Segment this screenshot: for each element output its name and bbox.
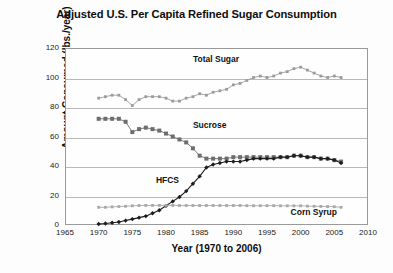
series-label-hfcs: HFCS <box>156 175 179 185</box>
y-tick-120: 120 <box>29 43 59 52</box>
gridline-y-40 <box>66 167 367 168</box>
gridline-y-60 <box>66 138 367 139</box>
x-tick-2010: 2010 <box>348 228 388 237</box>
series-label-sucrose: Sucrose <box>193 120 227 130</box>
x-axis-label: Year (1970 to 2006) <box>65 243 368 254</box>
series-label-total-sugar: Total Sugar <box>193 54 239 64</box>
y-tick-20: 20 <box>29 191 59 200</box>
y-tick-80: 80 <box>29 102 59 111</box>
y-tick-60: 60 <box>29 132 59 141</box>
gridline-y-100 <box>66 79 367 80</box>
gridline-y-80 <box>66 108 367 109</box>
chart-title: Adjusted U.S. Per Capita Refined Sugar C… <box>0 8 393 20</box>
gridline-y-20 <box>66 197 367 198</box>
y-tick-40: 40 <box>29 161 59 170</box>
chart-figure: Adjusted U.S. Per Capita Refined Sugar C… <box>0 0 393 273</box>
y-tick-100: 100 <box>29 73 59 82</box>
series-label-corn-syrup: Corn Syrup <box>291 207 337 217</box>
plot-area <box>65 48 368 225</box>
